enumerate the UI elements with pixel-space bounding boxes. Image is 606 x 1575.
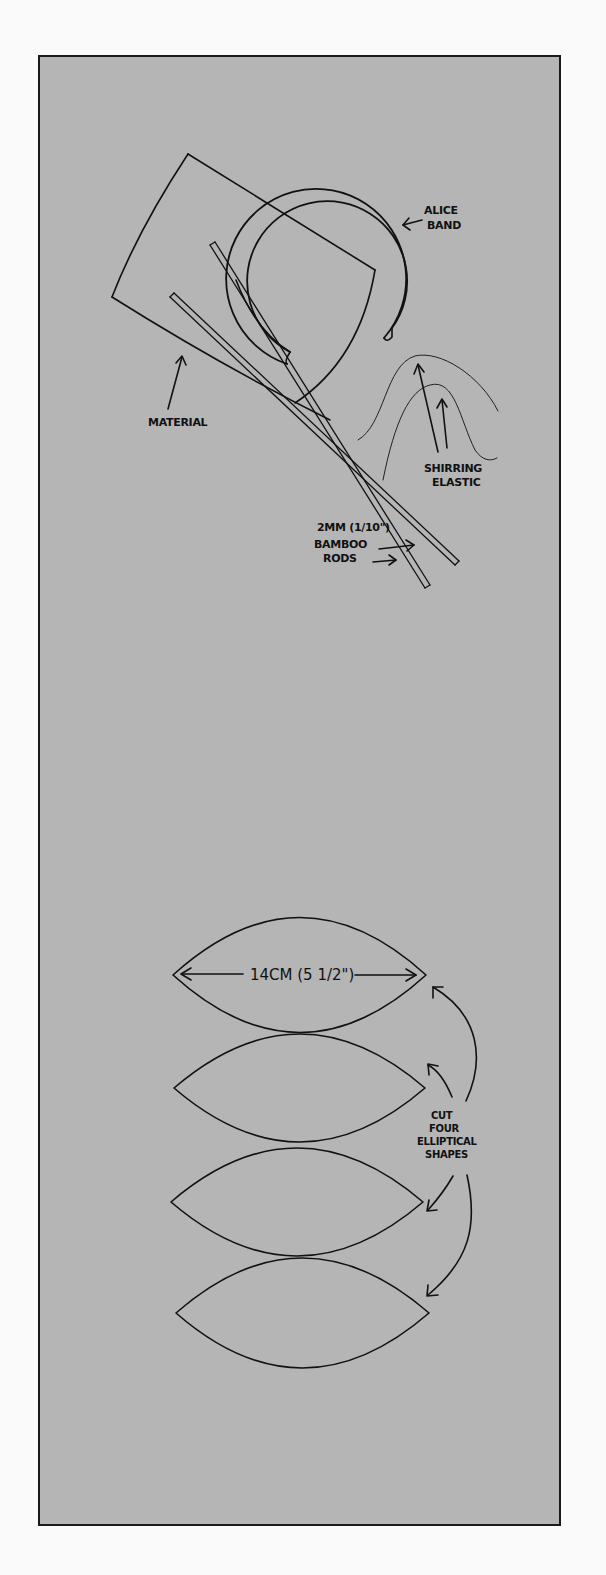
svg-text:SHIRRING: SHIRRING: [424, 462, 482, 475]
alice-band: [226, 189, 407, 364]
bamboo-rod-1: [170, 293, 459, 565]
elliptical-shape-2: [174, 1034, 425, 1142]
alice-band-label: ALICE BAND: [424, 204, 461, 232]
dimension-label: 14CM (5 1/2"): [250, 966, 354, 984]
elliptical-shape-3: [171, 1148, 423, 1256]
svg-text:BAND: BAND: [427, 219, 461, 232]
svg-text:ELASTIC: ELASTIC: [432, 476, 481, 489]
shirring-elastic-label: SHIRRING ELASTIC: [424, 462, 482, 489]
elliptical-shape-4: [176, 1258, 429, 1368]
svg-text:ALICE: ALICE: [424, 204, 458, 217]
craft-diagram: ALICE BAND MATERIAL SHIRRING ELASTIC 2MM…: [0, 0, 606, 1575]
svg-text:CUT: CUT: [431, 1110, 453, 1121]
svg-text:2MM (1/10"): 2MM (1/10"): [317, 521, 390, 534]
svg-text:SHAPES: SHAPES: [425, 1149, 468, 1160]
svg-text:BAMBOO: BAMBOO: [314, 538, 367, 551]
bamboo-rods-label: 2MM (1/10") BAMBOO RODS: [314, 521, 390, 565]
instruction-label: CUT FOUR ELLIPTICAL SHAPES: [417, 1110, 478, 1160]
svg-text:ELLIPTICAL: ELLIPTICAL: [417, 1136, 478, 1147]
material-label: MATERIAL: [148, 416, 208, 429]
svg-text:FOUR: FOUR: [429, 1123, 460, 1134]
svg-text:RODS: RODS: [323, 552, 357, 565]
